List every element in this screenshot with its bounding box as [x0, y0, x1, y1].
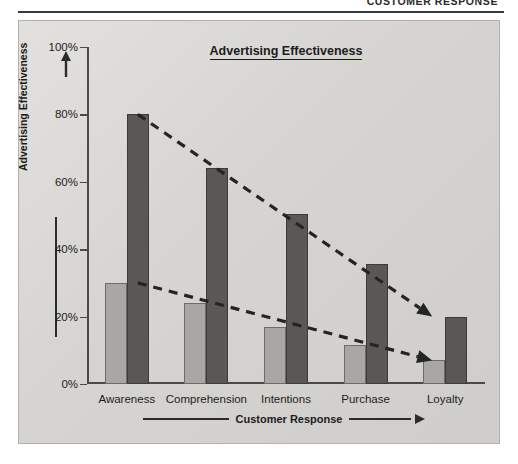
- y-axis-tick-label: 80%: [55, 108, 78, 120]
- running-head-title: CUSTOMER RESPONSE: [367, 0, 498, 7]
- bar[interactable]: [286, 214, 308, 384]
- y-axis-tick-label: 0%: [61, 378, 78, 390]
- x-axis-title: Customer Response: [19, 413, 499, 425]
- y-axis-tick-mark: [80, 182, 87, 183]
- y-axis-tick-mark: [80, 317, 87, 318]
- running-head: CUSTOMER RESPONSE: [0, 0, 518, 16]
- y-axis-tick-label: 60%: [55, 176, 78, 188]
- running-head-rule: [18, 11, 504, 13]
- bar[interactable]: [206, 168, 228, 384]
- bar[interactable]: [105, 283, 127, 384]
- x-axis-category-label: Loyalty: [427, 393, 463, 405]
- plot-area: 0%20%40%60%80%100% AwarenessComprehensio…: [87, 47, 485, 384]
- y-axis-tick-mark: [80, 114, 87, 115]
- x-axis-title-text: Customer Response: [236, 413, 343, 425]
- bar[interactable]: [344, 345, 366, 384]
- x-axis-category-label: Comprehension: [166, 393, 247, 405]
- x-axis-title-rule-right: [349, 418, 411, 420]
- bar-group: Awareness: [87, 114, 167, 384]
- y-axis-tick-label: 100%: [49, 41, 78, 53]
- bar[interactable]: [184, 303, 206, 384]
- bar-group: Loyalty: [405, 317, 485, 384]
- y-axis-title: Advertising Effectiveness: [17, 43, 29, 171]
- y-axis-tick-mark: [80, 249, 87, 250]
- x-axis-category-label: Awareness: [98, 393, 155, 405]
- bar-group: Intentions: [246, 214, 326, 384]
- y-axis-tick-mark: [80, 47, 87, 48]
- x-axis-category-label: Purchase: [341, 393, 390, 405]
- y-axis-tick-label: 20%: [55, 311, 78, 323]
- bar[interactable]: [366, 264, 388, 384]
- bar[interactable]: [423, 360, 445, 384]
- bar-group: Comprehension: [167, 168, 247, 384]
- y-axis-arrow-icon: [60, 51, 72, 77]
- bar-group: Purchase: [326, 264, 406, 384]
- x-axis-category-label: Intentions: [261, 393, 311, 405]
- y-axis-tick-label: 40%: [55, 243, 78, 255]
- y-axis-tick-mark: [80, 384, 87, 385]
- bar[interactable]: [445, 317, 467, 384]
- x-axis-title-arrow-icon: [415, 414, 425, 424]
- x-axis-title-rule-left: [143, 418, 229, 420]
- bar[interactable]: [127, 114, 149, 384]
- figure-panel: Advertising Effectiveness Advertising Ef…: [18, 20, 500, 444]
- bar[interactable]: [264, 327, 286, 384]
- trend-line-arrowhead-icon: [416, 303, 432, 317]
